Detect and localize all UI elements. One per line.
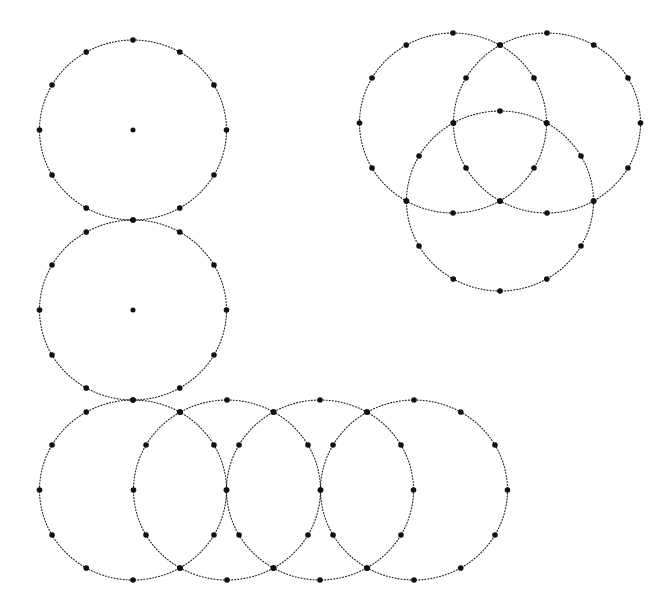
point-marker xyxy=(591,42,597,48)
point-marker xyxy=(416,243,422,249)
point-marker xyxy=(83,229,89,235)
point-marker xyxy=(364,409,370,415)
point-marker xyxy=(211,352,217,358)
point-marker xyxy=(224,577,230,583)
point-marker xyxy=(544,30,550,36)
point-marker xyxy=(236,532,242,538)
point-marker xyxy=(497,42,503,48)
point-marker xyxy=(224,127,230,133)
point-marker xyxy=(544,210,550,216)
point-marker xyxy=(492,532,498,538)
point-marker xyxy=(450,210,456,216)
point-marker xyxy=(177,229,183,235)
point-marker xyxy=(450,120,456,126)
point-marker xyxy=(411,577,417,583)
point-marker xyxy=(211,172,217,178)
point-marker xyxy=(578,153,584,159)
center-point-marker xyxy=(130,307,135,312)
point-marker xyxy=(37,127,43,133)
point-marker xyxy=(49,82,55,88)
point-marker xyxy=(357,120,363,126)
single-circle-top-left xyxy=(37,37,230,223)
point-marker xyxy=(130,37,136,43)
point-marker xyxy=(211,532,217,538)
point-marker xyxy=(531,75,537,81)
point-marker xyxy=(83,409,89,415)
point-marker xyxy=(369,165,375,171)
point-marker xyxy=(404,198,410,204)
point-marker xyxy=(544,276,550,282)
point-marker xyxy=(211,82,217,88)
point-marker xyxy=(177,205,183,211)
single-circle-middle-left xyxy=(37,217,230,403)
point-marker xyxy=(49,262,55,268)
point-marker xyxy=(416,153,422,159)
point-marker xyxy=(531,165,537,171)
point-marker xyxy=(463,165,469,171)
point-marker xyxy=(83,385,89,391)
point-marker xyxy=(177,565,183,571)
point-marker xyxy=(177,385,183,391)
point-marker xyxy=(305,442,311,448)
point-marker xyxy=(143,532,149,538)
point-marker xyxy=(49,172,55,178)
point-marker xyxy=(224,397,230,403)
point-marker xyxy=(403,42,409,48)
point-marker xyxy=(130,397,136,403)
point-marker xyxy=(317,397,323,403)
point-marker xyxy=(497,108,503,114)
point-marker xyxy=(458,565,464,571)
point-marker xyxy=(143,442,149,448)
point-marker xyxy=(369,75,375,81)
point-marker xyxy=(497,288,503,294)
point-marker xyxy=(458,409,464,415)
four-circle-chain-bottom xyxy=(37,397,511,583)
point-marker xyxy=(130,577,136,583)
point-marker xyxy=(544,120,550,126)
point-marker xyxy=(83,49,89,55)
point-marker xyxy=(505,487,511,493)
point-marker xyxy=(37,487,43,493)
point-marker xyxy=(211,442,217,448)
point-marker xyxy=(130,217,136,223)
point-marker xyxy=(49,352,55,358)
point-marker xyxy=(591,198,597,204)
point-marker xyxy=(450,276,456,282)
point-marker xyxy=(83,565,89,571)
point-marker xyxy=(317,577,323,583)
point-marker xyxy=(638,120,644,126)
point-marker xyxy=(305,532,311,538)
point-marker xyxy=(211,262,217,268)
point-marker xyxy=(224,307,230,313)
point-marker xyxy=(330,532,336,538)
point-marker xyxy=(318,487,324,493)
point-marker xyxy=(463,75,469,81)
dotted-circle xyxy=(37,37,230,223)
circle-groups xyxy=(37,30,644,583)
point-marker xyxy=(450,30,456,36)
diagram-canvas xyxy=(0,0,672,615)
point-marker xyxy=(270,565,276,571)
point-marker xyxy=(49,442,55,448)
point-marker xyxy=(492,442,498,448)
dotted-circle xyxy=(37,217,230,403)
point-marker xyxy=(364,565,370,571)
point-marker xyxy=(177,49,183,55)
point-marker xyxy=(37,307,43,313)
point-marker xyxy=(330,442,336,448)
point-marker xyxy=(497,198,503,204)
point-marker xyxy=(49,532,55,538)
point-marker xyxy=(224,487,230,493)
point-marker xyxy=(177,409,183,415)
point-marker xyxy=(578,243,584,249)
point-marker xyxy=(398,442,404,448)
point-marker xyxy=(270,409,276,415)
point-marker xyxy=(625,75,631,81)
point-marker xyxy=(398,532,404,538)
three-circle-cluster-top-right xyxy=(357,30,644,294)
point-marker xyxy=(83,205,89,211)
point-marker xyxy=(411,487,417,493)
center-point-marker xyxy=(130,127,135,132)
point-marker xyxy=(236,442,242,448)
point-marker xyxy=(411,397,417,403)
